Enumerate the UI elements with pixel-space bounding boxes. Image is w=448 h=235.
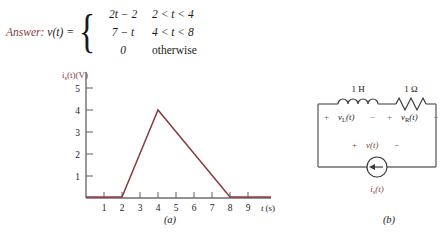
- inductor-value-label: 1 H: [351, 84, 365, 94]
- resistor-plus-sign: +: [387, 112, 392, 122]
- inductor-voltage-label: vL(t): [338, 112, 354, 123]
- x-tick-label: 5: [174, 203, 179, 213]
- x-tick-label: 6: [192, 203, 197, 213]
- figure-caption-a: (a): [150, 214, 190, 225]
- source-voltage-label: v(t): [366, 140, 379, 150]
- piecewise-row: 2t − 2 2 < t < 4: [100, 6, 197, 22]
- x-axis-label: t(s): [261, 203, 275, 213]
- piecewise-condition: 2 < t < 4: [146, 6, 194, 22]
- resistor-symbol: [396, 98, 426, 110]
- piecewise-brace: {: [79, 14, 96, 50]
- y-tick-label: 4: [75, 106, 80, 116]
- piecewise-expression: 2t − 2: [100, 6, 146, 22]
- x-tick-label: 9: [246, 203, 251, 213]
- y-tick-label: 1: [75, 172, 80, 182]
- source-voltage-minus-sign: −: [394, 140, 399, 150]
- x-tick-label: 2: [120, 203, 125, 213]
- piecewise-row: 7 − t 4 < t < 8: [100, 24, 197, 40]
- x-tick-label: 4: [156, 203, 161, 213]
- x-tick-label: 7: [210, 203, 215, 213]
- circuit-diagram: 1 H 1 Ω + vL(t) − + vR(t) − + v(t) − is(…: [308, 78, 444, 208]
- piecewise-row: 0 otherwise: [100, 42, 197, 58]
- inductor-plus-sign: +: [324, 112, 329, 122]
- y-tick-label: 3: [75, 128, 80, 138]
- x-tick-label: 3: [138, 203, 143, 213]
- resistor-value-label: 1 Ω: [404, 84, 418, 94]
- inductor-symbol: [338, 99, 378, 104]
- y-tick-label: 5: [75, 84, 80, 94]
- answer-lhs: v(t) =: [47, 26, 74, 38]
- resistor-voltage-label: vR(t): [401, 112, 418, 123]
- answer-label: Answer:: [6, 26, 44, 38]
- waveform-graph: 1 2 3 4 5 1 2 3 4 5 6 7 8 9 is(t)(V) t: [56, 68, 326, 233]
- inductor-minus-sign: −: [370, 112, 375, 122]
- figure-caption-b: (b): [369, 214, 409, 225]
- piecewise-expression: 0: [100, 42, 146, 58]
- piecewise-condition: 4 < t < 8: [146, 24, 194, 40]
- graph-svg: 1 2 3 4 5 1 2 3 4 5 6 7 8 9 is(t)(V) t: [56, 68, 326, 233]
- x-tick-label: 1: [102, 203, 107, 213]
- answer-equation-block: Answer: v(t) = { 2t − 2 2 < t < 4 7 − t …: [6, 6, 197, 58]
- y-axis-label: is(t)(V): [62, 70, 88, 81]
- piecewise-condition: otherwise: [146, 42, 197, 58]
- circuit-svg: 1 H 1 Ω + vL(t) − + vR(t) − + v(t) − is(…: [308, 78, 444, 208]
- source-voltage-plus-sign: +: [352, 140, 357, 150]
- y-tick-marks: [86, 88, 93, 176]
- current-source-arrow-head: [369, 164, 375, 170]
- y-tick-label: 2: [75, 150, 80, 160]
- waveform-polyline: [86, 110, 271, 197]
- x-tick-label: 8: [228, 203, 233, 213]
- piecewise-rows: 2t − 2 2 < t < 4 7 − t 4 < t < 8 0 other…: [100, 6, 197, 58]
- source-current-label: is(t): [370, 184, 384, 195]
- piecewise-expression: 7 − t: [100, 24, 146, 40]
- resistor-minus-sign: −: [433, 112, 438, 122]
